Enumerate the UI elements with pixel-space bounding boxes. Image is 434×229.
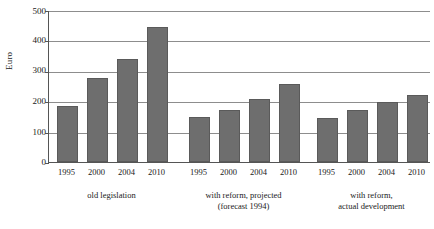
gridline-400	[49, 41, 430, 42]
x-tick-label: 1995	[183, 167, 214, 177]
bar	[87, 78, 108, 162]
x-tick-label: 1995	[51, 167, 82, 177]
y-tick-mark-100	[45, 133, 49, 134]
gridline-300	[49, 72, 430, 73]
group-caption-line: with reform,	[276, 190, 434, 201]
bar	[249, 99, 270, 162]
x-tick-label: 2004	[371, 167, 402, 177]
bar	[279, 84, 300, 162]
y-tick-mark-300	[45, 72, 49, 73]
x-tick-label: 2000	[341, 167, 372, 177]
bar-chart: Euro 500 400 300 200 100 0 1995200020042…	[0, 0, 434, 229]
bar	[57, 106, 78, 162]
bar	[407, 95, 428, 162]
bar	[377, 102, 398, 162]
y-tick-label-500: 500	[18, 7, 46, 16]
y-tick-label-0: 0	[18, 158, 46, 167]
bar	[317, 118, 338, 162]
bar	[189, 117, 210, 162]
x-tick-label: 1995	[311, 167, 342, 177]
x-tick-label: 2010	[273, 167, 304, 177]
y-tick-mark-0	[45, 163, 49, 164]
y-tick-label-200: 200	[18, 97, 46, 106]
y-axis-title: Euro	[4, 56, 14, 70]
x-tick-label: 2000	[213, 167, 244, 177]
plot-area	[48, 11, 430, 163]
y-tick-mark-500	[45, 11, 49, 12]
gridline-500	[49, 11, 430, 12]
bar	[219, 110, 240, 162]
group-caption-line: actual development	[276, 201, 434, 212]
y-tick-mark-200	[45, 102, 49, 103]
bar	[147, 27, 168, 162]
bar	[117, 59, 138, 162]
x-tick-label: 2010	[141, 167, 172, 177]
y-tick-label-400: 400	[18, 36, 46, 45]
x-tick-label: 2004	[243, 167, 274, 177]
x-tick-label: 2000	[81, 167, 112, 177]
group-caption: with reform,actual development	[276, 190, 434, 212]
y-tick-mark-400	[45, 41, 49, 42]
x-tick-label: 2004	[111, 167, 142, 177]
y-tick-label-300: 300	[18, 66, 46, 75]
x-tick-label: 2010	[401, 167, 432, 177]
bar	[347, 110, 368, 162]
y-tick-label-100: 100	[18, 128, 46, 137]
